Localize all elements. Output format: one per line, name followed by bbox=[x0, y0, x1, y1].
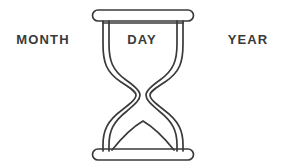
sand-mound bbox=[112, 121, 174, 150]
glass-body-outer-right bbox=[150, 21, 183, 151]
hourglass-time-units-figure: MONTH DAY YEAR bbox=[0, 0, 284, 168]
top-cap bbox=[93, 10, 194, 21]
glass-body-inner-right bbox=[146, 21, 177, 151]
glass-body-inner-left bbox=[109, 21, 140, 151]
glass-body-outer-left bbox=[103, 21, 136, 151]
hourglass-icon bbox=[0, 0, 284, 168]
bottom-cap bbox=[93, 149, 194, 160]
